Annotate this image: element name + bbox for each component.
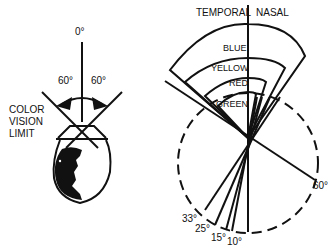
field-label-red: RED bbox=[229, 78, 249, 88]
color-vision-diagram: 0° 60° 60° COLOR VISION LIMIT TEMPORAL N… bbox=[0, 0, 334, 252]
visual-field-diagram bbox=[165, 5, 318, 233]
angle-label-60: 60° bbox=[313, 180, 328, 191]
side-label-line-1: COLOR bbox=[9, 104, 45, 115]
retina-highlight bbox=[59, 160, 61, 162]
field-label-blue: BLUE bbox=[223, 43, 247, 53]
field-label-yellow: YELLOW bbox=[211, 63, 249, 73]
angle-label-left-60: 60° bbox=[58, 75, 73, 86]
angle-label-right-60: 60° bbox=[91, 75, 106, 86]
eye-retina-shading bbox=[55, 147, 82, 200]
header-temporal: TEMPORAL bbox=[196, 7, 251, 18]
angle-label-0: 0° bbox=[75, 26, 85, 37]
angle-label-15: 15° bbox=[211, 232, 226, 243]
field-label-green: GREEN bbox=[216, 99, 248, 109]
angle-label-25: 25° bbox=[195, 223, 210, 234]
angle-label-10: 10° bbox=[227, 236, 242, 247]
header-nasal: NASAL bbox=[256, 7, 289, 18]
side-label-line-2: VISION bbox=[9, 116, 43, 127]
eye-color-vision-limit-diagram bbox=[42, 42, 122, 203]
side-label-line-3: LIMIT bbox=[9, 128, 35, 139]
